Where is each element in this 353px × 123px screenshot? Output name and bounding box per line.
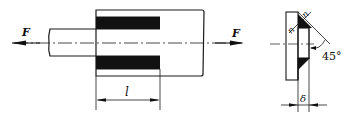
thickness-label: δ: [300, 93, 306, 104]
weld-top: [96, 17, 160, 29]
delta-arrow-left-icon: [289, 103, 298, 106]
shaft-outline: [49, 29, 160, 56]
weld-joint-diagram: F F l n n 45° δ: [0, 0, 353, 123]
weld-bottom: [96, 56, 160, 69]
plate-outer: [286, 12, 298, 80]
force-label-left: F: [21, 26, 31, 39]
weld-section-bottom: [298, 58, 310, 70]
arrow-head-right-icon: [230, 41, 244, 46]
weld-length-label: l: [125, 85, 129, 99]
delta-arrow-right-icon: [309, 103, 318, 106]
force-arrow-left: [12, 41, 40, 46]
force-arrow-right: [215, 41, 244, 46]
angle-arrow-icon: [310, 46, 316, 50]
weld-leg-label-side: n: [285, 24, 296, 35]
dim-arrow-right-icon: [150, 98, 160, 101]
dim-arrow-left-icon: [96, 98, 106, 101]
plate-inner: [298, 28, 309, 58]
force-label-right: F: [231, 27, 241, 40]
angle-label: 45°: [322, 50, 342, 63]
